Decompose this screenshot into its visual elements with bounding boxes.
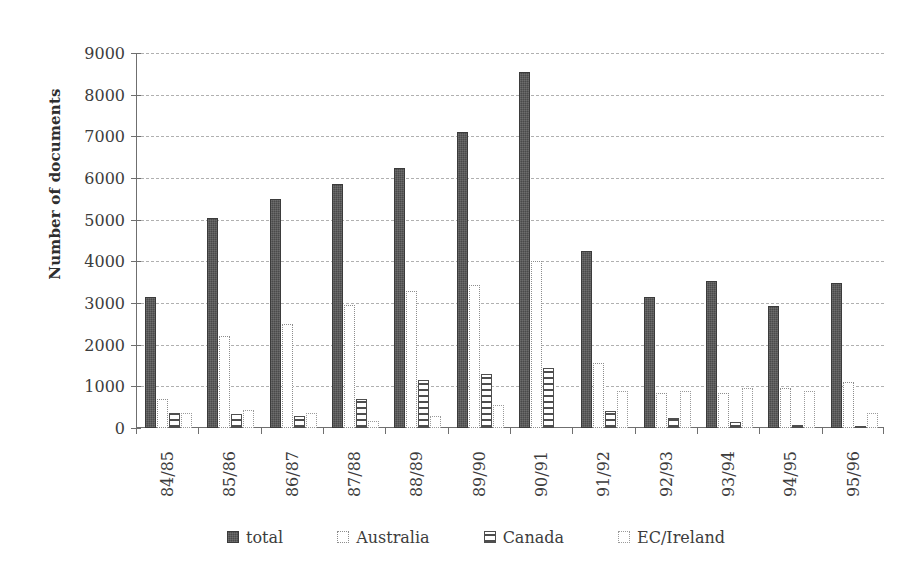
legend-label-australia: Australia (356, 528, 429, 547)
bar-total-95-96 (831, 283, 842, 428)
x-label-cell: 95/96 (822, 438, 884, 518)
bar-group-86-87 (261, 53, 323, 428)
x-label-cell: 90/91 (510, 438, 572, 518)
x-tick-cell (510, 428, 572, 434)
bar-total-91-92 (581, 251, 592, 428)
x-tick-cell (136, 428, 198, 434)
x-label-cell: 86/87 (261, 438, 323, 518)
bar-australia-87-88 (344, 305, 355, 428)
x-tick-label-90-91: 90/91 (532, 451, 551, 497)
legend-item-canada[interactable]: Canada (484, 528, 564, 547)
bar-group-91-92 (572, 53, 634, 428)
bar-ec-ireland-84-85 (181, 413, 192, 428)
x-tick-mark (385, 428, 386, 434)
x-tick-label-92-93: 92/93 (656, 451, 675, 497)
bar-group-95-96 (822, 53, 884, 428)
x-label-cell: 92/93 (635, 438, 697, 518)
bar-ec-ireland-94-95 (804, 391, 815, 429)
x-tick-label-91-92: 91/92 (594, 451, 613, 497)
bar-total-90-91 (519, 72, 530, 428)
bar-total-94-95 (768, 306, 779, 428)
x-tick-mark (323, 428, 324, 434)
x-tick-label-86-87: 86/87 (282, 451, 301, 497)
bar-australia-91-92 (593, 363, 604, 428)
y-tick-label: 2000 (84, 335, 125, 354)
x-label-cell: 94/95 (759, 438, 821, 518)
bar-chart: Number of documents 90008000700060005000… (0, 0, 913, 580)
bar-australia-90-91 (531, 261, 542, 429)
legend-label-total: total (246, 528, 283, 547)
bar-australia-86-87 (282, 324, 293, 428)
bar-total-88-89 (394, 168, 405, 428)
white-outline-swatch (618, 531, 630, 543)
dotted-outline-swatch (337, 531, 349, 543)
x-tick-cell (198, 428, 260, 434)
bar-group-94-95 (759, 53, 821, 428)
x-tick-mark (697, 428, 698, 434)
x-axis-tick-marks (136, 428, 884, 434)
bar-australia-85-86 (219, 336, 230, 428)
bar-ec-ireland-88-89 (430, 416, 441, 429)
x-tick-cell (261, 428, 323, 434)
x-tick-label-84-85: 84/85 (158, 451, 177, 497)
bar-total-85-86 (207, 218, 218, 428)
x-tick-cell (697, 428, 759, 434)
x-tick-cell (448, 428, 510, 434)
y-tick-label: 4000 (84, 252, 125, 271)
x-tick-mark (136, 428, 137, 434)
bar-total-86-87 (270, 199, 281, 428)
bar-ec-ireland-93-94 (742, 388, 753, 428)
x-label-cell: 87/88 (323, 438, 385, 518)
bar-ec-ireland-85-86 (243, 410, 254, 428)
x-tick-cell (822, 428, 884, 434)
y-tick-label: 7000 (84, 127, 125, 146)
bar-australia-95-96 (843, 382, 854, 428)
x-axis-labels: 84/8585/8686/8787/8888/8989/9090/9191/92… (136, 438, 884, 518)
x-tick-label-85-86: 85/86 (220, 451, 239, 497)
x-tick-mark (572, 428, 573, 434)
legend-item-ec-ireland[interactable]: EC/Ireland (618, 528, 725, 547)
legend-item-australia[interactable]: Australia (337, 528, 429, 547)
bar-canada-87-88 (356, 399, 367, 428)
bar-australia-89-90 (469, 285, 480, 428)
legend-label-ec-ireland: EC/Ireland (637, 528, 725, 547)
bar-australia-84-85 (157, 399, 168, 428)
x-tick-cell (323, 428, 385, 434)
y-axis-title: Number of documents (46, 69, 64, 299)
bar-group-90-91 (510, 53, 572, 428)
y-tick-label: 9000 (84, 44, 125, 63)
horizontal-lines-swatch (484, 531, 496, 543)
bar-group-93-94 (697, 53, 759, 428)
x-tick-mark (822, 428, 823, 434)
bar-canada-88-89 (418, 380, 429, 428)
x-label-cell: 85/86 (198, 438, 260, 518)
x-tick-cell (635, 428, 697, 434)
x-tick-mark (510, 428, 511, 434)
y-tick-label: 1000 (84, 377, 125, 396)
bar-group-88-89 (385, 53, 447, 428)
bar-ec-ireland-86-87 (306, 413, 317, 428)
bar-ec-ireland-89-90 (493, 405, 504, 428)
x-tick-mark (759, 428, 760, 434)
bar-total-89-90 (457, 132, 468, 428)
x-tick-cell (572, 428, 634, 434)
bar-canada-90-91 (543, 368, 554, 428)
bar-group-85-86 (198, 53, 260, 428)
x-label-cell: 89/90 (448, 438, 510, 518)
bar-total-87-88 (332, 184, 343, 428)
bar-canada-86-87 (294, 416, 305, 429)
bar-group-87-88 (323, 53, 385, 428)
chart-legend: totalAustraliaCanadaEC/Ireland (136, 523, 816, 551)
x-tick-mark (198, 428, 199, 434)
x-tick-label-89-90: 89/90 (469, 451, 488, 497)
x-tick-label-88-89: 88/89 (407, 451, 426, 497)
bar-ec-ireland-95-96 (867, 413, 878, 428)
x-label-cell: 88/89 (385, 438, 447, 518)
plot-area: 9000800070006000500040003000200010000 (136, 53, 884, 428)
y-tick-label: 0 (115, 419, 125, 438)
bar-canada-91-92 (605, 411, 616, 428)
x-tick-label-94-95: 94/95 (781, 451, 800, 497)
legend-item-total[interactable]: total (227, 528, 283, 547)
bar-group-89-90 (448, 53, 510, 428)
y-tick-label: 8000 (84, 85, 125, 104)
